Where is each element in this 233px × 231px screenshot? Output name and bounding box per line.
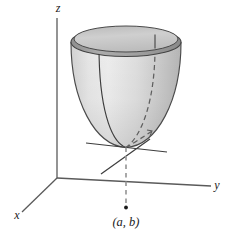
point-marker <box>124 206 128 210</box>
paraboloid-surface <box>71 26 181 148</box>
x-axis <box>22 178 57 212</box>
x-axis-label: x <box>13 208 20 222</box>
paraboloid-figure: z y x (a, b) <box>0 0 233 231</box>
point-label: (a, b) <box>112 215 139 229</box>
figure-container: z y x (a, b) <box>0 0 233 231</box>
y-axis-label: y <box>213 178 220 192</box>
paraboloid-body-shade <box>71 42 181 148</box>
rim-inner-ellipse <box>74 26 178 52</box>
z-axis-label: z <box>55 1 61 15</box>
y-axis <box>57 178 211 186</box>
